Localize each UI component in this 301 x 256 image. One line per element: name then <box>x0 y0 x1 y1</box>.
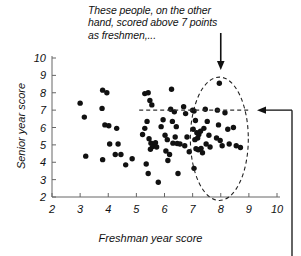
data-point <box>140 132 145 137</box>
data-point <box>107 141 112 146</box>
data-point <box>175 171 180 176</box>
data-point <box>184 134 189 139</box>
y-tick-label: 10 <box>18 52 46 64</box>
data-point <box>217 80 222 85</box>
data-point <box>206 133 211 138</box>
x-tick-label: 9 <box>246 203 252 215</box>
data-point <box>222 110 227 115</box>
data-point <box>182 143 187 148</box>
y-tick-label: 5 <box>18 139 46 151</box>
data-points <box>77 80 243 184</box>
y-tick-label: 2 <box>18 191 46 203</box>
data-point <box>170 119 175 124</box>
callout-arrow-down-head <box>217 61 225 70</box>
data-point <box>99 106 104 111</box>
axes <box>52 56 280 197</box>
data-point <box>203 107 208 112</box>
data-point <box>183 111 188 116</box>
y-tick-label: 8 <box>18 87 46 99</box>
data-point <box>114 126 119 131</box>
data-point <box>158 124 163 129</box>
data-point <box>83 153 88 158</box>
data-point <box>167 152 172 157</box>
data-point <box>192 137 197 142</box>
data-point <box>165 158 170 163</box>
data-point <box>217 138 222 143</box>
x-axis-ticks <box>52 193 277 197</box>
x-tick-label: 3 <box>77 203 83 215</box>
data-point <box>118 152 123 157</box>
y-tick-label: 3 <box>18 174 46 186</box>
x-tick-label: 4 <box>105 203 111 215</box>
y-tick-label: 6 <box>18 122 46 134</box>
data-point <box>177 141 182 146</box>
data-point <box>207 144 212 149</box>
data-point <box>129 156 134 161</box>
data-point <box>144 161 149 166</box>
data-point <box>238 145 243 150</box>
callout-annotation-text: These people, on the other hand, scored … <box>88 4 238 41</box>
y-tick-label: 9 <box>18 69 46 81</box>
data-point <box>144 119 149 124</box>
data-point <box>201 126 206 131</box>
data-point <box>104 90 109 95</box>
x-tick-label: 7 <box>190 203 196 215</box>
x-tick-label: 10 <box>271 203 283 215</box>
data-point <box>106 123 111 128</box>
data-point <box>219 143 224 148</box>
data-point <box>174 124 179 129</box>
callout-arrow-left-head <box>257 107 266 114</box>
data-point <box>113 152 118 157</box>
y-tick-label: 7 <box>18 104 46 116</box>
data-point <box>205 119 210 124</box>
data-point <box>82 114 87 119</box>
y-axis-ticks <box>52 58 56 197</box>
data-point <box>149 102 154 107</box>
scatter-figure: These people, on the other hand, scored … <box>0 0 301 256</box>
data-point <box>172 134 177 139</box>
data-point <box>154 144 159 149</box>
x-tick-label: 2 <box>49 203 55 215</box>
x-axis-title: Freshman year score <box>0 232 301 244</box>
data-point <box>148 147 153 152</box>
data-point <box>193 118 198 123</box>
data-point <box>100 157 105 162</box>
y-tick-label: 4 <box>18 156 46 168</box>
data-point <box>165 137 170 142</box>
data-point <box>160 117 165 122</box>
data-point <box>216 122 221 127</box>
data-point <box>226 141 231 146</box>
data-point <box>156 180 161 185</box>
data-point <box>145 171 150 176</box>
data-point <box>200 150 205 155</box>
x-tick-label: 5 <box>133 203 139 215</box>
data-point <box>77 100 82 105</box>
data-point <box>225 127 230 132</box>
data-point <box>142 126 147 131</box>
data-point <box>231 125 236 130</box>
data-point <box>115 141 120 146</box>
data-point <box>145 90 150 95</box>
data-point <box>169 87 174 92</box>
x-tick-label: 6 <box>161 203 167 215</box>
data-point <box>123 162 128 167</box>
data-point <box>181 104 186 109</box>
x-tick-label: 8 <box>218 203 224 215</box>
